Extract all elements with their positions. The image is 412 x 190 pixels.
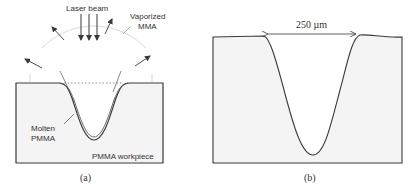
vapor-arrow-4 bbox=[135, 56, 150, 66]
workpiece-label: PMMA workpiece bbox=[92, 152, 154, 161]
molten-label-1: Molten bbox=[31, 124, 55, 133]
vaporized-label-1: Vaporized bbox=[130, 12, 165, 21]
width-dimension-label: 250 µm bbox=[296, 19, 327, 30]
caption-a: (a) bbox=[80, 172, 91, 184]
pmma-workpiece bbox=[16, 83, 163, 163]
laser-ablation-figure: Laser beam Vaporized MMA Molten PMMA PMM… bbox=[0, 0, 412, 190]
vaporized-leader bbox=[123, 27, 130, 34]
panel-a: Laser beam Vaporized MMA Molten PMMA PMM… bbox=[16, 4, 165, 184]
panel-b: 250 µm (b) bbox=[213, 19, 402, 184]
molten-label-2: PMMA bbox=[31, 134, 56, 143]
vapor-arrow-2 bbox=[25, 59, 42, 68]
caption-b: (b) bbox=[304, 172, 316, 184]
vaporized-label-2: MMA bbox=[138, 22, 157, 31]
laser-beam-label: Laser beam bbox=[66, 4, 109, 13]
cross-section-profile bbox=[213, 35, 402, 163]
vapor-arrow-3 bbox=[105, 19, 112, 34]
vapor-plume-arc bbox=[30, 26, 152, 82]
